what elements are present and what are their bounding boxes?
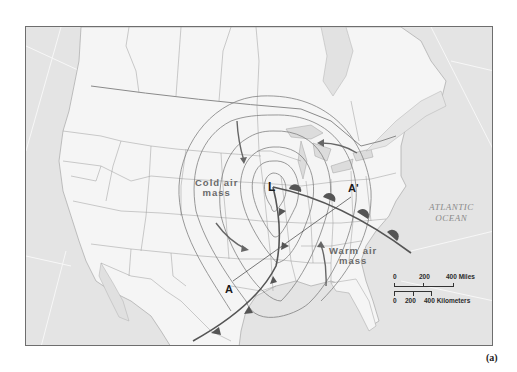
scale-bar-km-line [394, 291, 432, 296]
cold-air-line2: mass [195, 188, 238, 198]
ocean-line1: ATLANTIC [429, 202, 474, 213]
low-pressure-center: L [268, 180, 275, 194]
scale-km-400: 400 Kilometers [424, 297, 470, 304]
scale-miles-0: 0 [393, 273, 397, 280]
scale-km-200: 200 [405, 297, 416, 304]
point-a-label: A [225, 283, 233, 295]
cold-air-mass-label: Cold air mass [195, 178, 238, 198]
weather-map: Cold air mass Warm air mass L A A' ATLAN… [25, 26, 493, 346]
scale-km-0: 0 [393, 297, 397, 304]
warm-air-line2: mass [329, 256, 377, 266]
point-a-prime-label: A' [348, 182, 359, 194]
scale-bar-miles-line [394, 283, 454, 287]
scale-miles-400: 400 Miles [446, 273, 475, 280]
atlantic-ocean-label: ATLANTIC OCEAN [429, 202, 474, 224]
scale-miles-200: 200 [419, 273, 430, 280]
ocean-line2: OCEAN [429, 213, 474, 224]
scale-bar: 0 200 400 Miles 0 200 400 Kilometers [391, 273, 491, 323]
figure-label: (a) [486, 352, 498, 363]
warm-air-mass-label: Warm air mass [329, 246, 377, 266]
